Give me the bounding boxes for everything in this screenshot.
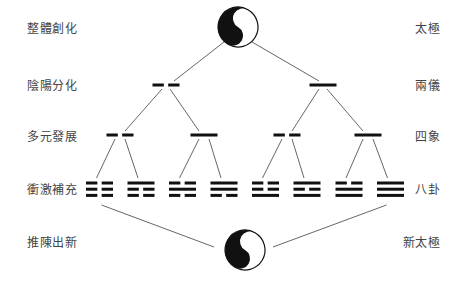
yin-line-left: [336, 182, 347, 185]
yang-line: [169, 188, 196, 191]
label-taiji: 太極: [415, 22, 440, 36]
yang-line: [128, 182, 155, 185]
yang-line: [377, 188, 404, 191]
connector-lines: [97, 42, 388, 247]
yin-line-left: [211, 194, 222, 197]
four-images: [107, 134, 382, 137]
yin-line-right: [268, 182, 279, 185]
label-four-images: 四象: [415, 130, 440, 144]
yin-line-left: [86, 194, 97, 197]
yin-line-left: [274, 134, 285, 137]
yang-line: [336, 188, 363, 191]
yang-line: [377, 182, 404, 185]
trigram-kan: [169, 182, 196, 197]
yin-line-left: [107, 134, 118, 137]
yin-line-right: [351, 182, 362, 185]
yang-line: [355, 134, 382, 137]
yin-line-left: [86, 182, 97, 185]
yin-line-left: [169, 182, 180, 185]
yin-line-right: [185, 182, 196, 185]
yin-line-right: [102, 194, 113, 197]
trigram-dui: [336, 182, 363, 197]
new-taiji-icon: [218, 223, 273, 278]
yang-line: [310, 84, 337, 87]
yin-line-right: [102, 188, 113, 191]
trigram-qian: [377, 182, 404, 197]
yin-line-right: [268, 188, 279, 191]
two-modes: [153, 84, 337, 87]
trigram-li: [294, 182, 321, 197]
yang-line: [252, 194, 279, 197]
yin-line-right: [102, 182, 113, 185]
yin-line-right: [168, 84, 179, 87]
yang-line: [377, 194, 404, 197]
yin-line-left: [252, 188, 263, 191]
eight-trigrams: [86, 182, 404, 197]
yang-line: [336, 194, 363, 197]
yin-line-right: [143, 188, 154, 191]
yin-line-right: [226, 194, 237, 197]
label-renewal: 推陳出新: [27, 236, 77, 250]
yin-line-right: [143, 194, 154, 197]
trigram-gen: [128, 182, 155, 197]
yin-line-left: [294, 188, 305, 191]
yin-line-left: [169, 194, 180, 197]
yin-line-left: [128, 194, 139, 197]
yin-line-right: [309, 188, 320, 191]
yin-line-left: [153, 84, 164, 87]
trigram-zhen: [252, 182, 279, 197]
trigram-xun: [211, 182, 238, 197]
label-impact-complement: 衝激補充: [27, 183, 77, 197]
label-holistic-creation: 整體創化: [27, 22, 77, 36]
yang-line: [294, 194, 321, 197]
label-diverse-development: 多元發展: [27, 130, 77, 144]
yin-line-left: [128, 188, 139, 191]
yin-line-right: [185, 194, 196, 197]
yin-line-left: [86, 188, 97, 191]
label-two-modes: 兩儀: [415, 79, 440, 93]
label-new-taiji: 新太極: [403, 236, 441, 250]
yang-line: [294, 182, 321, 185]
label-yin-yang-differentiation: 陰陽分化: [27, 79, 77, 93]
yin-line-right: [289, 134, 300, 137]
yang-line: [191, 134, 218, 137]
yin-line-left: [252, 182, 263, 185]
yang-line: [211, 182, 238, 185]
label-eight-trigrams: 八卦: [415, 183, 440, 197]
trigram-kun: [86, 182, 113, 197]
yin-line-right: [122, 134, 133, 137]
yang-line: [211, 188, 238, 191]
